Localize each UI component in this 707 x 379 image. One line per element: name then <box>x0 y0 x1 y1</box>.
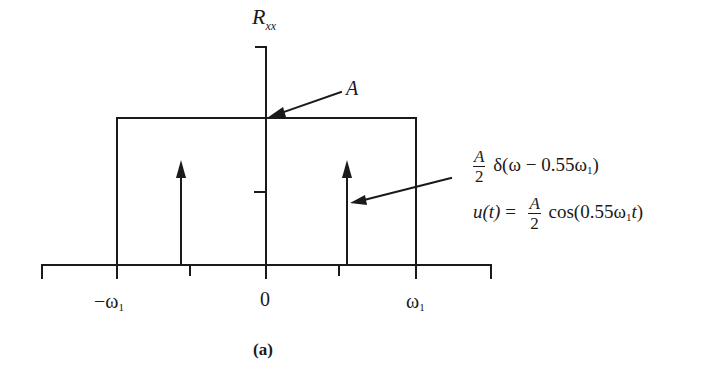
tick-label-neg-omega1: −ω1 <box>94 290 124 313</box>
arrow-to-A-head-icon <box>267 107 286 118</box>
fraction-A-over-2: A2 <box>528 195 540 232</box>
signal-annotation: u(t) = A2 cos(0.55ω1t) <box>473 195 643 232</box>
figure-caption: (a) <box>253 340 273 360</box>
impulse-negative-arrowhead-icon <box>176 160 186 178</box>
arrow-to-impulse-line <box>360 178 451 201</box>
impulse-positive-arrowhead-icon <box>342 160 352 178</box>
tick-label-omega1: ω1 <box>406 290 425 313</box>
arrow-to-A-line <box>278 92 341 114</box>
y-axis-label: Rxx <box>252 4 276 34</box>
spectrum-diagram <box>0 0 707 379</box>
fraction-A-over-2: A2 <box>473 148 485 185</box>
tick-label-zero: 0 <box>260 288 270 311</box>
delta-annotation: A2 δ(ω − 0.55ω1) <box>470 148 599 185</box>
amplitude-label: A <box>346 77 358 100</box>
arrow-to-impulse-head-icon <box>350 195 367 205</box>
